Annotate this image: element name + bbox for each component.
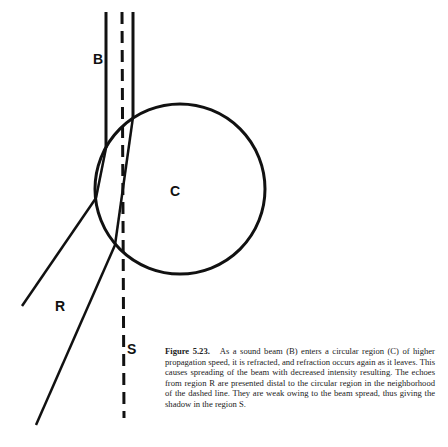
label-b: B	[93, 52, 103, 66]
figure-caption: Figure 5.23. As a sound beam (B) enters …	[165, 346, 435, 410]
label-s: S	[127, 342, 136, 356]
dashed-line	[122, 12, 124, 418]
exit-ray-left	[22, 198, 96, 306]
label-r: R	[55, 299, 65, 313]
exit-ray-right	[36, 245, 115, 425]
label-c: C	[170, 184, 180, 198]
caption-number: Figure 5.23.	[165, 346, 210, 356]
